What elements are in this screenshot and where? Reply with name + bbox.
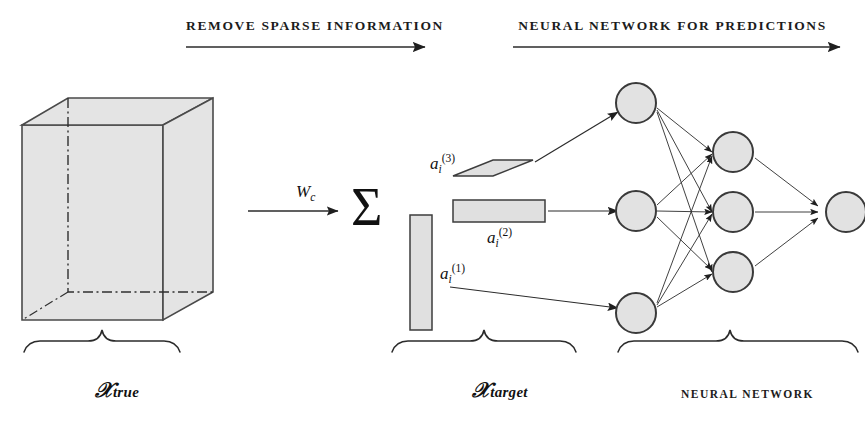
output-node-1	[826, 192, 865, 232]
arrow-a3-to-input-node-1	[535, 112, 618, 162]
hidden-node-3	[713, 252, 753, 292]
cube-front-face	[22, 125, 163, 320]
network-edges-hidden-output	[755, 158, 818, 266]
cube-right-face	[163, 98, 213, 320]
factor-shape-a3-parallelogram	[453, 160, 533, 176]
hidden-node-1	[713, 132, 753, 172]
input-node-1	[616, 83, 656, 123]
network-input-layer	[616, 83, 656, 333]
input-node-3	[616, 293, 656, 333]
brace-x-target	[392, 330, 576, 352]
figure-canvas: REMOVE SPARSE INFORMATION NEURAL NETWORK…	[0, 0, 865, 424]
input-node-2	[616, 191, 656, 231]
hidden-node-2	[713, 192, 753, 232]
brace-x-true	[24, 330, 180, 352]
network-hidden-layer	[713, 132, 753, 292]
factor-shape-a1-vertical-bar	[410, 215, 432, 330]
factor-shape-a2-horizontal-bar	[453, 200, 545, 222]
input-tensor-cube	[22, 98, 213, 320]
brace-neural-network	[618, 330, 858, 352]
arrow-a1-to-input-node-3	[450, 287, 618, 308]
diagram-vector-layer	[0, 0, 865, 424]
network-edges-input-hidden	[657, 108, 712, 307]
